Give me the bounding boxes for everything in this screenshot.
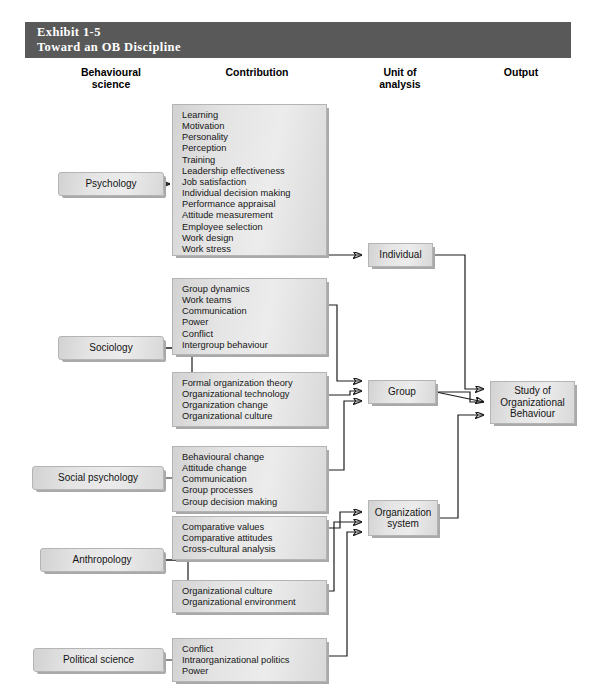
contribution-list-sociology-org: Formal organization theoryOrganizational… <box>182 378 293 423</box>
exhibit-number: Exhibit 1-5 <box>37 25 101 40</box>
column-header-unit-of-analysis: Unit of analysis <box>337 66 463 90</box>
contribution-item: Leadership effectiveness <box>182 166 291 177</box>
wire-group-contrib-to-group <box>327 305 362 381</box>
wire-socpsych-contrib-to-group <box>327 401 362 470</box>
column-header-output: Output <box>466 66 576 78</box>
contribution-box-social-psychology: Behavioural changeAttitude changeCommuni… <box>172 446 327 512</box>
contribution-item: Performance appraisal <box>182 199 291 210</box>
contribution-item: Conflict <box>182 644 290 655</box>
contribution-item: Organization change <box>182 400 293 411</box>
discipline-box-anthropology[interactable]: Anthropology <box>40 548 164 572</box>
discipline-box-political-science[interactable]: Political science <box>33 648 164 672</box>
contribution-list-anthropology-org: Organizational cultureOrganizational env… <box>182 586 296 608</box>
wire-org-contrib-to-group <box>327 391 362 395</box>
contribution-item: Organizational culture <box>182 411 293 422</box>
discipline-box-psychology[interactable]: Psychology <box>58 172 164 196</box>
contribution-item: Employee selection <box>182 222 291 233</box>
contribution-item: Group dynamics <box>182 284 268 295</box>
contribution-item: Organizational environment <box>182 597 296 608</box>
contribution-list-political-science: ConflictIntraorganizational politicsPowe… <box>182 644 290 677</box>
contribution-item: Cross-cultural analysis <box>182 544 276 555</box>
column-header-behavioural-science-line1: Behavioural <box>46 66 176 78</box>
contribution-item: Group decision making <box>182 497 277 508</box>
wire-individual-to-output <box>433 255 484 389</box>
contribution-item: Work design <box>182 233 291 244</box>
contribution-list-social-psychology: Behavioural changeAttitude changeCommuni… <box>182 452 277 508</box>
contribution-item: Motivation <box>182 121 291 132</box>
discipline-label-political-science: Political science <box>63 654 134 666</box>
wire-anthro-org-to-org-system <box>327 522 362 591</box>
output-label-line2: Organizational <box>500 397 564 409</box>
contribution-item: Communication <box>182 306 268 317</box>
contribution-list-anthropology-values: Comparative valuesComparative attitudesC… <box>182 522 276 555</box>
contribution-item: Attitude measurement <box>182 210 291 221</box>
contribution-item: Power <box>182 317 268 328</box>
discipline-box-social-psychology[interactable]: Social psychology <box>32 466 164 490</box>
contribution-item: Attitude change <box>182 463 277 474</box>
contribution-item: Training <box>182 155 291 166</box>
wire-group-to-output <box>436 392 484 402</box>
contribution-item: Job satisfaction <box>182 177 291 188</box>
discipline-label-sociology: Sociology <box>89 342 132 354</box>
unit-label-organization-system-line1: Organization <box>375 507 432 519</box>
unit-box-group[interactable]: Group <box>368 380 436 404</box>
contribution-box-political-science: ConflictIntraorganizational politicsPowe… <box>172 638 327 682</box>
contribution-item: Work stress <box>182 244 291 255</box>
output-box-study-of-ob[interactable]: Study of Organizational Behaviour <box>490 381 575 424</box>
contribution-item: Group processes <box>182 485 277 496</box>
discipline-label-psychology: Psychology <box>85 178 136 190</box>
exhibit-title: Toward an OB Discipline <box>37 40 181 55</box>
contribution-item: Comparative values <box>182 522 276 533</box>
contribution-item: Comparative attitudes <box>182 533 276 544</box>
discipline-label-social-psychology: Social psychology <box>58 472 138 484</box>
column-header-unit-line1: Unit of <box>337 66 463 78</box>
unit-box-organization-system[interactable]: Organization system <box>368 500 438 536</box>
contribution-item: Behavioural change <box>182 452 277 463</box>
column-header-contribution: Contribution <box>192 66 322 78</box>
wire-polisci-contrib-to-org-system <box>327 532 362 656</box>
unit-label-group: Group <box>388 386 416 398</box>
contribution-item: Organizational technology <box>182 389 293 400</box>
discipline-box-sociology[interactable]: Sociology <box>58 336 164 360</box>
contribution-item: Conflict <box>182 329 268 340</box>
contribution-item: Perception <box>182 143 291 154</box>
unit-label-individual: Individual <box>379 249 421 261</box>
contribution-item: Work teams <box>182 295 268 306</box>
contribution-item: Power <box>182 666 290 677</box>
exhibit-diagram-page: Exhibit 1-5 Toward an OB Discipline Beha… <box>0 0 591 699</box>
contribution-box-anthropology-values: Comparative valuesComparative attitudesC… <box>172 516 327 560</box>
output-label-line1: Study of <box>514 385 551 397</box>
unit-box-individual[interactable]: Individual <box>368 243 433 267</box>
contribution-item: Learning <box>182 110 291 121</box>
contribution-item: Individual decision making <box>182 188 291 199</box>
contribution-box-psychology: LearningMotivationPersonalityPerceptionT… <box>172 104 327 256</box>
wire-anthro-values-to-org-system <box>327 512 362 528</box>
contribution-item: Organizational culture <box>182 586 296 597</box>
contribution-list-psychology: LearningMotivationPersonalityPerceptionT… <box>182 110 291 255</box>
column-header-behavioural-science-line2: science <box>46 78 176 90</box>
contribution-item: Communication <box>182 474 277 485</box>
contribution-item: Intergroup behaviour <box>182 340 268 351</box>
contribution-item: Personality <box>182 132 291 143</box>
contribution-box-anthropology-org: Organizational cultureOrganizational env… <box>172 580 327 613</box>
contribution-box-sociology-org: Formal organization theoryOrganizational… <box>172 372 327 427</box>
wire-group-to-output-path <box>436 392 484 402</box>
column-header-behavioural-science: Behavioural science <box>46 66 176 90</box>
output-label-line3: Behaviour <box>510 408 555 420</box>
unit-label-organization-system-line2: system <box>387 518 419 530</box>
contribution-item: Intraorganizational politics <box>182 655 290 666</box>
contribution-list-sociology-group: Group dynamicsWork teamsCommunicationPow… <box>182 284 268 351</box>
exhibit-title-bar: Exhibit 1-5 Toward an OB Discipline <box>25 22 571 58</box>
column-header-unit-line2: analysis <box>337 78 463 90</box>
contribution-item: Formal organization theory <box>182 378 293 389</box>
wire-org-system-to-output <box>438 415 484 518</box>
discipline-label-anthropology: Anthropology <box>73 554 132 566</box>
contribution-box-sociology-group: Group dynamicsWork teamsCommunicationPow… <box>172 278 327 355</box>
